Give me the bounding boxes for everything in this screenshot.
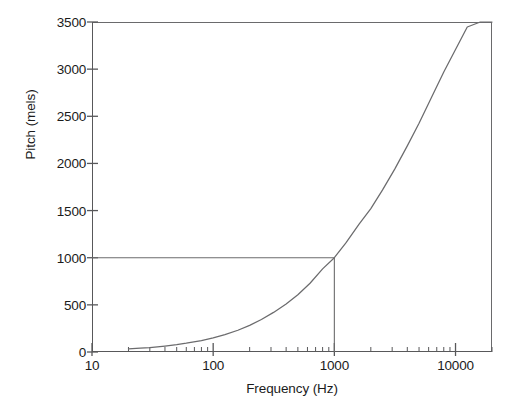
x-axis-tick-label: 10 xyxy=(85,358,100,373)
x-axis-tick-label: 1000 xyxy=(320,358,349,373)
y-axis-tick-labels: 0500100015002000250030003500 xyxy=(14,0,86,420)
mel-scale-curve xyxy=(128,22,492,349)
y-axis-tick-label: 500 xyxy=(24,297,86,312)
x-axis-tick-label: 100 xyxy=(202,358,224,373)
x-axis-tick-label: 10000 xyxy=(437,358,474,373)
y-axis-title: Pitch (mels) xyxy=(23,65,38,185)
x-axis-minor-ticks xyxy=(128,347,492,352)
mel-scale-chart-figure: 0500100015002000250030003500 10100100010… xyxy=(0,0,506,420)
y-axis-tick-label: 1000 xyxy=(24,250,86,265)
y-axis-tick-label: 0 xyxy=(24,345,86,360)
y-axis-major-ticks xyxy=(87,22,98,352)
x-axis-title: Frequency (Hz) xyxy=(92,381,492,396)
x-axis-major-ticks xyxy=(92,343,456,356)
y-axis-tick-label: 1500 xyxy=(24,203,86,218)
y-axis-tick-label: 3500 xyxy=(24,15,86,30)
